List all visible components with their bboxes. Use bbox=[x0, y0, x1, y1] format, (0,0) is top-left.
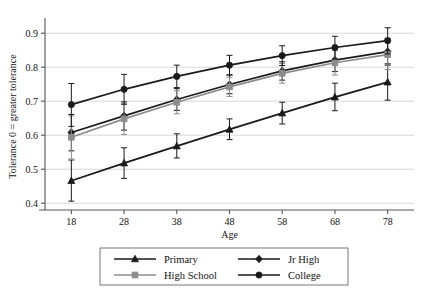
x-tick-label: 78 bbox=[383, 216, 393, 227]
x-tick-label: 48 bbox=[225, 216, 235, 227]
data-point-square bbox=[132, 272, 138, 278]
x-axis-ticks: 18283848586878 bbox=[66, 210, 392, 227]
legend-label: Jr High bbox=[288, 254, 320, 265]
data-point-square bbox=[68, 134, 74, 140]
data-point-square bbox=[332, 60, 338, 66]
data-point-circle bbox=[68, 102, 74, 108]
data-point-square bbox=[174, 99, 180, 105]
data-point-square bbox=[121, 116, 127, 122]
legend-label: Primary bbox=[164, 254, 199, 265]
axes bbox=[39, 18, 414, 210]
y-tick-label: 0.8 bbox=[26, 62, 39, 73]
y-axis-title: Tolerance 0 = greater tolerance bbox=[7, 54, 18, 179]
data-point-circle bbox=[332, 44, 338, 50]
y-tick-label: 0.9 bbox=[26, 28, 39, 39]
y-tick-label: 0.4 bbox=[26, 198, 39, 209]
data-point-circle bbox=[226, 62, 232, 68]
x-tick-label: 68 bbox=[330, 216, 340, 227]
x-tick-label: 18 bbox=[66, 216, 76, 227]
data-point-triangle bbox=[384, 78, 391, 85]
data-point-circle bbox=[385, 38, 391, 44]
chart-page: 0.40.50.60.70.80.9 18283848586878 Age To… bbox=[0, 0, 438, 291]
x-tick-label: 28 bbox=[119, 216, 129, 227]
x-tick-label: 38 bbox=[172, 216, 182, 227]
legend: PrimaryJr HighHigh SchoolCollege bbox=[100, 248, 348, 285]
y-tick-label: 0.7 bbox=[26, 96, 39, 107]
y-axis-ticks: 0.40.50.60.70.80.9 bbox=[26, 28, 46, 209]
data-point-circle bbox=[121, 86, 127, 92]
data-point-square bbox=[227, 84, 233, 90]
x-axis-title: Age bbox=[221, 229, 238, 240]
y-tick-label: 0.5 bbox=[26, 164, 39, 175]
x-tick-label: 58 bbox=[277, 216, 287, 227]
data-point-circle bbox=[174, 73, 180, 79]
data-point-square bbox=[279, 70, 285, 76]
tolerance-by-age-line-chart: 0.40.50.60.70.80.9 18283848586878 Age To… bbox=[0, 0, 438, 291]
data-point-circle bbox=[279, 53, 285, 59]
legend-label: College bbox=[288, 270, 321, 281]
legend-label: High School bbox=[164, 270, 217, 281]
y-tick-label: 0.6 bbox=[26, 130, 39, 141]
data-series-layer bbox=[68, 28, 391, 201]
data-point-circle bbox=[256, 272, 262, 278]
